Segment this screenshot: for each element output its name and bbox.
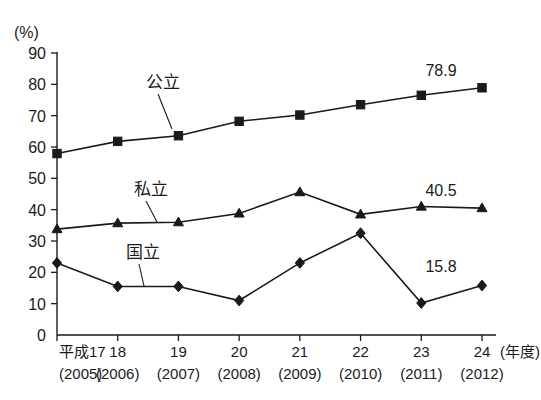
series-label-koritsu: 公立 (146, 73, 180, 92)
x-tick-sublabel: (2007) (157, 365, 200, 382)
x-tick-label: 20 (231, 343, 248, 360)
data-point-marker (417, 91, 425, 99)
value-label-shiritsu: 40.5 (425, 182, 456, 199)
x-tick-label: 23 (413, 343, 430, 360)
x-tick-sublabel: (2010) (339, 365, 382, 382)
value-label-koritsu: 78.9 (425, 62, 456, 79)
x-tick-label: 24 (474, 343, 491, 360)
series-label-shiritsu: 私立 (134, 180, 168, 199)
y-tick-label: 10 (28, 296, 46, 313)
y-tick-label: 50 (28, 170, 46, 187)
y-tick-label: 40 (28, 202, 46, 219)
y-tick-label: 60 (28, 139, 46, 156)
y-tick-label: 20 (28, 264, 46, 281)
value-label-kokuritsu: 15.8 (425, 258, 456, 275)
x-tick-sublabel: (2011) (400, 365, 442, 382)
y-tick-label: 70 (28, 108, 46, 125)
x-axis-unit-label: (年度) (500, 343, 540, 360)
x-tick-label: 22 (352, 343, 369, 360)
y-tick-label: 80 (28, 76, 46, 93)
x-tick-label: 21 (292, 343, 309, 360)
series-label-kokuritsu: 国立 (126, 243, 160, 262)
x-tick-label: 平成17 (59, 343, 106, 360)
x-tick-label: 19 (170, 343, 187, 360)
data-point-marker (174, 132, 182, 140)
data-point-marker (356, 101, 364, 109)
y-axis-unit-label: (%) (14, 24, 39, 41)
data-point-marker (235, 117, 243, 125)
x-tick-sublabel: (2008) (217, 365, 260, 382)
y-tick-label: 0 (37, 327, 46, 344)
x-tick-sublabel: (2009) (278, 365, 321, 382)
chart-background (0, 0, 541, 400)
chart-canvas: (%) 0102030405060708090 平成17(2005)18(200… (0, 0, 541, 400)
x-tick-sublabel: (2012) (460, 365, 503, 382)
data-point-marker (478, 84, 486, 92)
data-point-marker (114, 137, 122, 145)
y-tick-label: 90 (28, 45, 46, 62)
data-point-marker (296, 111, 304, 119)
line-chart: (%) 0102030405060708090 平成17(2005)18(200… (0, 0, 541, 400)
y-tick-label: 30 (28, 233, 46, 250)
x-tick-sublabel: (2006) (96, 365, 139, 382)
data-point-marker (53, 149, 61, 157)
x-tick-label: 18 (109, 343, 126, 360)
